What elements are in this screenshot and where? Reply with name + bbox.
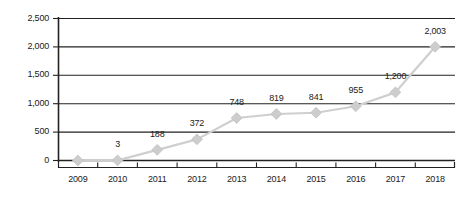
x-axis-tick-label: 2011 bbox=[135, 174, 179, 184]
data-point-label: 3 bbox=[96, 139, 140, 149]
x-axis-tick-label: 2009 bbox=[56, 174, 100, 184]
data-point-label: 2,003 bbox=[413, 26, 457, 36]
data-point-label: 819 bbox=[254, 93, 298, 103]
data-point-marker bbox=[271, 109, 282, 120]
x-axis-tick-label: 2014 bbox=[254, 174, 298, 184]
x-axis-tick-label: 2010 bbox=[96, 174, 140, 184]
y-axis-tick-label: 2,000 bbox=[0, 41, 49, 51]
y-axis bbox=[53, 17, 59, 162]
data-point-marker bbox=[311, 107, 322, 118]
data-point-marker bbox=[72, 155, 83, 166]
x-axis-tick-label: 2018 bbox=[413, 174, 457, 184]
y-axis-tick-label: 500 bbox=[0, 126, 49, 136]
data-point-label: 1,200 bbox=[373, 71, 417, 81]
x-axis-tick-label: 2012 bbox=[175, 174, 219, 184]
y-axis-tick-label: 1,000 bbox=[0, 98, 49, 108]
data-point-label: 372 bbox=[175, 118, 219, 128]
data-point-label: 841 bbox=[294, 92, 338, 102]
data-point-label: 188 bbox=[135, 129, 179, 139]
data-point-marker bbox=[231, 113, 242, 124]
y-axis-tick-label: 0 bbox=[0, 155, 49, 165]
x-axis-tick-label: 2015 bbox=[294, 174, 338, 184]
x-axis-tick-label: 2016 bbox=[334, 174, 378, 184]
data-point-marker bbox=[350, 101, 361, 112]
data-point-marker bbox=[152, 144, 163, 155]
y-axis-tick-label: 1,500 bbox=[0, 69, 49, 79]
data-point-marker bbox=[192, 134, 203, 145]
y-axis-tick-label: 2,500 bbox=[0, 13, 49, 23]
x-axis-tick-label: 2013 bbox=[215, 174, 259, 184]
data-point-label: 955 bbox=[334, 85, 378, 95]
data-point-marker bbox=[112, 155, 123, 166]
x-axis-tick-label: 2017 bbox=[373, 174, 417, 184]
line-chart: 05001,0001,5002,0002,500 200920102011201… bbox=[0, 0, 462, 201]
data-point-label: 748 bbox=[215, 97, 259, 107]
